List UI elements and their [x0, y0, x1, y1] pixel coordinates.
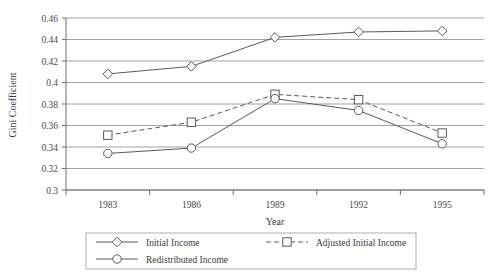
- x-axis-title: Year: [266, 216, 285, 227]
- gini-coefficient-line-chart: 0.30.320.340.360.380.40.420.440.46 19831…: [0, 0, 497, 280]
- y-tick-label: 0.3: [46, 186, 58, 196]
- x-tick-label: 1992: [349, 200, 368, 210]
- y-tick-label: 0.42: [41, 57, 58, 67]
- y-tick-label: 0.32: [41, 164, 58, 174]
- y-tick-label: 0.44: [41, 35, 58, 45]
- data-point-marker: [354, 96, 362, 104]
- y-tick-label: 0.4: [46, 78, 58, 88]
- data-point-marker: [104, 149, 112, 157]
- data-point-marker: [438, 129, 446, 137]
- data-point-marker: [103, 69, 113, 79]
- series-group: [103, 26, 447, 158]
- y-tick-labels-group: 0.30.320.340.360.380.40.420.440.46: [41, 14, 58, 196]
- y-axis-title: Gini Coefficient: [7, 72, 18, 137]
- series-initial-income: [103, 26, 447, 79]
- x-tick-label: 1995: [433, 200, 452, 210]
- data-point-marker: [271, 94, 279, 102]
- x-tick-label: 1989: [266, 200, 285, 210]
- legend-label: Redistributed Income: [146, 255, 228, 265]
- data-point-marker: [437, 26, 447, 36]
- data-point-marker: [354, 27, 364, 37]
- chart-figure: 0.30.320.340.360.380.40.420.440.46 19831…: [0, 0, 497, 280]
- legend-label: Initial Income: [146, 238, 200, 248]
- legend-group: Initial IncomeAdjusted Initial IncomeRed…: [96, 237, 406, 264]
- data-point-marker: [187, 62, 197, 72]
- gridlines-group: [66, 18, 484, 190]
- y-tick-label: 0.38: [41, 100, 58, 110]
- data-point-marker: [187, 144, 195, 152]
- series-line: [108, 99, 442, 154]
- data-point-marker: [104, 131, 112, 139]
- y-tick-label: 0.36: [41, 121, 58, 131]
- data-point-marker: [438, 140, 446, 148]
- x-tick-label: 1983: [98, 200, 117, 210]
- y-tick-label: 0.34: [41, 143, 58, 153]
- data-point-marker: [270, 33, 280, 43]
- data-point-marker: [187, 118, 195, 126]
- data-point-marker: [354, 106, 362, 114]
- legend-marker: [283, 238, 291, 246]
- legend-marker: [112, 237, 122, 247]
- x-tick-labels-group: 19831986198919921995: [98, 200, 452, 210]
- legend-marker: [113, 255, 121, 263]
- legend-label: Adjusted Initial Income: [316, 238, 406, 248]
- y-tick-label: 0.46: [41, 14, 58, 24]
- x-tick-label: 1986: [182, 200, 201, 210]
